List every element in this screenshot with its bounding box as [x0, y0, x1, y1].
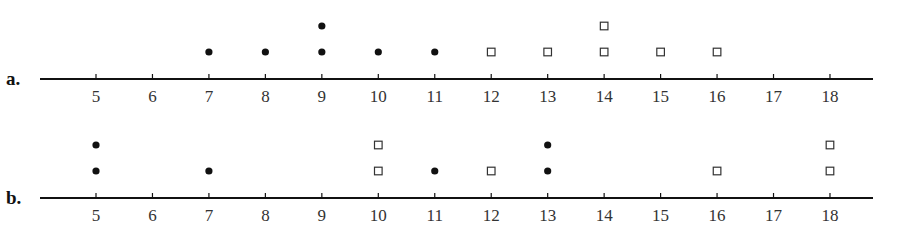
tick-label: 14	[596, 87, 614, 106]
open-square-marker	[375, 167, 383, 175]
tick-label: 15	[652, 206, 669, 225]
tick-label: 11	[427, 206, 443, 225]
dot-plot-panel-b: b.56789101112131415161718	[6, 141, 873, 225]
filled-circle-marker	[92, 167, 99, 174]
open-square-marker	[375, 141, 383, 149]
tick-label: 17	[765, 206, 783, 225]
open-square-marker	[657, 48, 665, 56]
open-square-marker	[826, 141, 834, 149]
tick-label: 12	[483, 87, 500, 106]
tick-label: 9	[318, 87, 327, 106]
tick-label: 8	[261, 87, 270, 106]
open-square-marker	[713, 48, 721, 56]
tick-label: 6	[148, 87, 157, 106]
tick-label: 11	[427, 87, 443, 106]
panel-label: b.	[6, 187, 21, 208]
panel-label: a.	[6, 68, 20, 89]
tick-label: 7	[205, 206, 214, 225]
filled-circle-marker	[431, 167, 438, 174]
tick-label: 13	[539, 87, 556, 106]
dot-plot-panel-a: a.56789101112131415161718	[6, 22, 873, 106]
tick-label: 5	[92, 87, 101, 106]
filled-circle-marker	[375, 48, 382, 55]
open-square-marker	[487, 167, 495, 175]
open-square-marker	[600, 48, 608, 56]
tick-label: 16	[709, 206, 726, 225]
tick-label: 6	[148, 206, 157, 225]
tick-label: 5	[92, 206, 101, 225]
open-square-marker	[544, 48, 552, 56]
tick-label: 7	[205, 87, 214, 106]
tick-label: 17	[765, 87, 783, 106]
tick-label: 10	[370, 87, 387, 106]
open-square-marker	[826, 167, 834, 175]
open-square-marker	[487, 48, 495, 56]
open-square-marker	[713, 167, 721, 175]
filled-circle-marker	[92, 141, 99, 148]
tick-label: 12	[483, 206, 500, 225]
tick-label: 8	[261, 206, 270, 225]
tick-label: 13	[539, 206, 556, 225]
filled-circle-marker	[318, 48, 325, 55]
tick-label: 18	[821, 206, 838, 225]
tick-label: 14	[596, 206, 614, 225]
open-square-marker	[600, 22, 608, 30]
filled-circle-marker	[544, 141, 551, 148]
tick-label: 18	[821, 87, 838, 106]
filled-circle-marker	[205, 48, 212, 55]
tick-label: 15	[652, 87, 669, 106]
tick-label: 9	[318, 206, 327, 225]
filled-circle-marker	[431, 48, 438, 55]
filled-circle-marker	[318, 22, 325, 29]
tick-label: 10	[370, 206, 387, 225]
filled-circle-marker	[544, 167, 551, 174]
tick-label: 16	[709, 87, 726, 106]
filled-circle-marker	[262, 48, 269, 55]
dot-plot-chart: a.56789101112131415161718b.5678910111213…	[0, 0, 899, 252]
filled-circle-marker	[205, 167, 212, 174]
